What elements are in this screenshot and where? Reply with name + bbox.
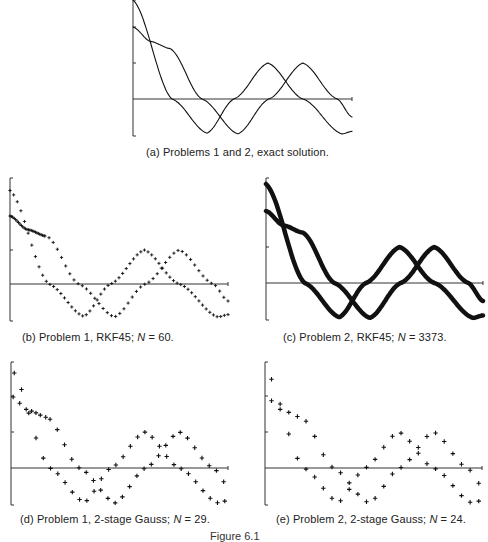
data-point-marker — [338, 499, 342, 503]
data-point-marker — [459, 493, 463, 497]
data-point-marker — [399, 465, 403, 469]
data-point-marker — [373, 457, 377, 461]
data-point-marker — [373, 496, 377, 500]
data-point-marker — [278, 402, 282, 406]
data-point-marker — [477, 499, 481, 503]
data-point-marker — [347, 481, 351, 485]
data-point-marker — [390, 472, 394, 476]
data-point-marker — [477, 481, 481, 485]
caption-e: (e) Problem 2, 2-stage Gauss; N = 24. — [276, 513, 466, 525]
data-point-marker — [312, 434, 316, 438]
data-point-marker — [287, 432, 291, 436]
data-point-marker — [321, 453, 325, 457]
data-point-marker — [425, 434, 429, 438]
data-point-marker — [321, 486, 325, 490]
data-point-marker — [459, 462, 463, 466]
data-point-marker — [442, 473, 446, 477]
data-point-marker — [330, 465, 334, 469]
data-point-marker — [269, 377, 273, 381]
data-point-marker — [468, 468, 472, 472]
data-point-marker — [338, 471, 342, 475]
caption-e-value: = 24. — [437, 513, 465, 525]
data-point-marker — [407, 457, 411, 461]
data-point-marker — [382, 445, 386, 449]
caption-e-text: (e) Problem 2, 2-stage Gauss; — [276, 513, 429, 525]
data-point-marker — [468, 500, 472, 504]
data-point-marker — [278, 407, 282, 411]
data-point-marker — [364, 500, 368, 504]
data-point-marker — [347, 487, 351, 491]
data-point-marker — [425, 462, 429, 466]
data-point-marker — [399, 431, 403, 435]
data-point-marker — [287, 410, 291, 414]
figure-label: Figure 6.1 — [210, 530, 260, 542]
data-point-marker — [269, 399, 273, 403]
data-point-marker — [330, 496, 334, 500]
data-point-marker — [312, 475, 316, 479]
data-point-marker — [416, 451, 420, 455]
data-point-marker — [416, 445, 420, 449]
data-point-marker — [356, 473, 360, 477]
data-point-marker — [295, 456, 299, 460]
data-point-marker — [407, 439, 411, 443]
data-point-marker — [356, 492, 360, 496]
data-point-marker — [364, 465, 368, 469]
data-point-marker — [304, 419, 308, 423]
data-point-marker — [295, 414, 299, 418]
data-point-marker — [433, 431, 437, 435]
data-point-marker — [451, 483, 455, 487]
data-point-marker — [451, 451, 455, 455]
data-point-marker — [442, 439, 446, 443]
data-point-marker — [390, 434, 394, 438]
data-point-marker — [433, 467, 437, 471]
data-point-marker — [382, 484, 386, 488]
